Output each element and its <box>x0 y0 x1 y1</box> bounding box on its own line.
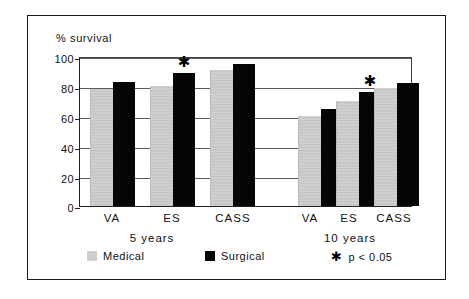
xtick-label-10y-cass: CASS <box>376 212 412 224</box>
plot-area: 100 80 60 40 20 0 <box>79 57 412 207</box>
significance-star-10y-es: ✱ <box>364 74 377 89</box>
bar-5y-es-surgical <box>173 73 195 207</box>
ytick-label-40: 40 <box>61 143 74 155</box>
bar-10y-es-medical <box>336 101 360 206</box>
bar-10y-cass-surgical <box>397 83 419 206</box>
ytick-mark-20 <box>75 179 80 180</box>
ytick-mark-0 <box>75 208 80 209</box>
gridline-100: 100 <box>80 58 411 59</box>
legend-label-medical: Medical <box>103 250 144 262</box>
bar-5y-va-surgical <box>113 82 135 207</box>
ytick-mark-80 <box>75 89 80 90</box>
bar-10y-va-medical <box>298 116 322 206</box>
group-label-5-years: 5 years <box>130 232 175 244</box>
figure-canvas: % survival 100 80 60 40 20 0 <box>0 0 469 299</box>
xtick-label-10y-es: ES <box>340 212 358 224</box>
ytick-label-0: 0 <box>67 202 74 214</box>
xtick-label-10y-va: VA <box>302 212 319 224</box>
ytick-label-20: 20 <box>61 173 74 185</box>
bar-5y-va-medical <box>90 89 114 206</box>
legend-swatch-surgical-icon <box>205 251 215 261</box>
xtick-label-5y-va: VA <box>104 212 121 224</box>
bar-5y-cass-medical <box>210 70 234 207</box>
xtick-label-5y-es: ES <box>163 212 181 224</box>
group-label-10-years: 10 years <box>324 232 376 244</box>
gridline-0: 0 <box>80 207 411 208</box>
ytick-mark-60 <box>75 119 80 120</box>
ytick-label-60: 60 <box>61 113 74 125</box>
ytick-label-80: 80 <box>61 83 74 95</box>
legend-label-significance: p < 0.05 <box>348 251 392 263</box>
legend-item-medical: Medical <box>87 250 144 262</box>
y-axis-caption: % survival <box>56 32 112 44</box>
legend-item-surgical: Surgical <box>205 250 265 262</box>
ytick-mark-40 <box>75 149 80 150</box>
legend: Medical Surgical ✱ p < 0.05 <box>79 250 424 266</box>
bar-5y-cass-surgical <box>233 64 255 207</box>
ytick-mark-100 <box>75 59 80 60</box>
ytick-label-100: 100 <box>54 53 74 65</box>
legend-item-significance: ✱ p < 0.05 <box>331 250 392 263</box>
asterisk-icon: ✱ <box>331 250 342 263</box>
significance-star-5y-es: ✱ <box>178 55 191 70</box>
xtick-label-5y-cass: CASS <box>215 212 251 224</box>
bar-5y-es-medical <box>150 86 174 206</box>
legend-label-surgical: Surgical <box>221 250 265 262</box>
legend-swatch-medical-icon <box>87 251 97 261</box>
bar-10y-cass-medical <box>374 88 398 207</box>
